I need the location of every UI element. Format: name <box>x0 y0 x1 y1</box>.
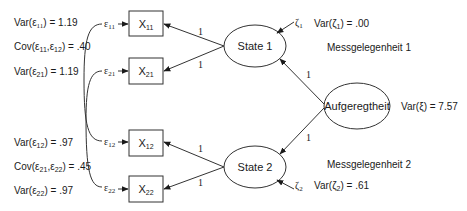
loading-arrow-state1-x21 <box>164 46 224 71</box>
param-var-e22: Var(ε22) = .97 <box>14 185 73 197</box>
disturbance-zeta1: ζ1 Var(ζ1) = .00 <box>277 17 370 33</box>
occasion-label-2: Messgelegenheit 2 <box>327 159 411 170</box>
svg-text:ε22: ε22 <box>104 182 116 195</box>
latent-state1: State 1 <box>224 25 286 67</box>
indicator-x11: X11 <box>129 11 163 36</box>
svg-text:State 1: State 1 <box>238 40 273 52</box>
svg-text:ζ1: ζ1 <box>295 17 303 30</box>
param-var-e21: Var(ε21) = 1.19 <box>14 66 79 78</box>
svg-text:Aufgeregtheit: Aufgeregtheit <box>324 100 389 112</box>
indicator-x22: X22 <box>129 176 163 202</box>
svg-text:Cov(ε11,ε12) = .40: Cov(ε11,ε12) = .40 <box>14 41 91 53</box>
svg-text:State 2: State 2 <box>238 161 273 173</box>
param-var-e11: Var(ε11) = 1.19 <box>14 17 78 30</box>
indicator-x21: X21 <box>129 58 163 84</box>
loading-label-state1-x21: 1 <box>198 59 203 70</box>
svg-text:ε11: ε11 <box>104 18 115 31</box>
sem-diagram: Var(ε11) = 1.19 Cov(ε11,ε12) = .40 Var(ε… <box>0 0 467 211</box>
path-arrow-trait-state1 <box>280 59 324 104</box>
svg-text:Var(ζ1) = .00: Var(ζ1) = .00 <box>314 18 370 30</box>
svg-text:ε12: ε12 <box>104 136 116 149</box>
svg-text:Var(ζ2) = .61: Var(ζ2) = .61 <box>314 180 370 192</box>
error-e21: ε21 <box>104 65 116 78</box>
path-arrow-trait-state2 <box>280 108 324 154</box>
latent-state2: State 2 <box>224 146 286 188</box>
svg-text:Var(ε11) = 1.19: Var(ε11) = 1.19 <box>14 17 78 30</box>
error-e11: ε11 <box>104 18 115 31</box>
svg-text:Var(ε12) = .97: Var(ε12) = .97 <box>14 137 73 149</box>
param-cov-e21-e22: Cov(ε21,ε22) = .45 <box>14 161 91 173</box>
indicator-x12: X12 <box>129 130 163 156</box>
latent-trait-aufgeregtheit: Aufgeregtheit <box>324 83 390 129</box>
occasion-label-1: Messgelegenheit 1 <box>327 42 411 53</box>
svg-text:ε21: ε21 <box>104 65 116 78</box>
loading-label-state1-x11: 1 <box>198 26 203 37</box>
svg-text:Var(ε21) = 1.19: Var(ε21) = 1.19 <box>14 66 79 78</box>
path-label-trait-state2: 1 <box>306 132 311 143</box>
trait-variance-label: Var(ξ) = 7.57 <box>401 101 458 113</box>
covariance-curve-e11-e12 <box>84 24 102 141</box>
path-label-trait-state1: 1 <box>306 69 311 80</box>
loading-label-state2-x12: 1 <box>198 143 203 154</box>
svg-text:ζ2: ζ2 <box>295 180 303 193</box>
error-e12: ε12 <box>104 136 116 149</box>
svg-text:Var(ε22) = .97: Var(ε22) = .97 <box>14 185 73 197</box>
param-var-e12: Var(ε12) = .97 <box>14 137 73 149</box>
svg-text:Cov(ε21,ε22) = .45: Cov(ε21,ε22) = .45 <box>14 161 91 173</box>
disturbance-zeta2: ζ2 Var(ζ2) = .61 <box>277 180 370 193</box>
param-cov-e11-e12: Cov(ε11,ε12) = .40 <box>14 41 91 53</box>
loading-arrow-state2-x12 <box>164 142 224 167</box>
loading-label-state2-x22: 1 <box>198 177 203 188</box>
loading-arrow-state1-x11 <box>164 24 224 46</box>
loading-arrow-state2-x22 <box>164 167 224 189</box>
error-e22: ε22 <box>104 182 116 195</box>
